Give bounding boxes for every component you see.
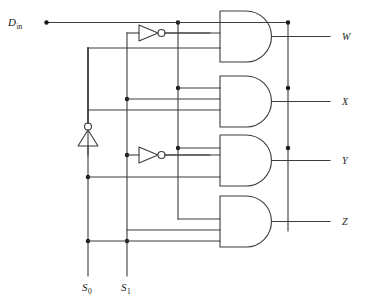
output-label-y: Y: [342, 155, 349, 166]
input-label-s0: S0: [82, 281, 92, 296]
logic-circuit-diagram: Din S0 S1 W X Y Z: [0, 0, 367, 301]
input-label-din: Din: [7, 16, 23, 31]
label-layer: Din S0 S1 W X Y Z: [0, 0, 367, 301]
output-label-z: Z: [342, 216, 348, 227]
output-label-w: W: [342, 31, 352, 42]
output-label-x: X: [341, 96, 349, 107]
input-label-s1: S1: [121, 281, 131, 296]
